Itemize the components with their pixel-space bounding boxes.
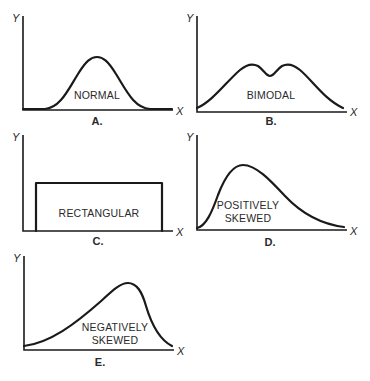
panel-bimodal: Y X BIMODAL B. — [186, 12, 358, 127]
x-axis-label: X — [349, 106, 358, 118]
x-axis-label: X — [175, 226, 184, 238]
panel-negatively-skewed: Y X NEGATIVELY SKEWED E. — [13, 252, 185, 368]
y-axis-label: Y — [186, 131, 194, 143]
shape-label-line2: SKEWED — [92, 334, 139, 346]
y-axis-label: Y — [12, 12, 20, 24]
panel-normal: Y X NORMAL A. — [12, 12, 184, 127]
panel-caption: B. — [266, 115, 277, 127]
y-axis-label: Y — [13, 252, 21, 264]
x-axis-label: X — [176, 345, 185, 357]
shape-label-line1: POSITIVELY — [217, 199, 280, 211]
panel-rectangular: Y X RECTANGULAR C. — [12, 131, 184, 247]
distribution-diagram: Y X NORMAL A. Y X BIMODAL B. Y X RECTANG… — [0, 0, 370, 381]
x-axis-label: X — [175, 105, 184, 117]
bimodal-curve — [197, 65, 343, 108]
panel-caption: C. — [93, 235, 104, 247]
panel-caption: E. — [95, 356, 105, 368]
shape-label-line2: SKEWED — [225, 212, 272, 224]
y-axis-label: Y — [186, 12, 194, 24]
shape-label-line1: NEGATIVELY — [82, 321, 148, 333]
panel-positively-skewed: Y X POSITIVELY SKEWED D. — [186, 131, 358, 248]
panel-caption: A. — [92, 115, 103, 127]
shape-label: RECTANGULAR — [59, 207, 140, 219]
shape-label: BIMODAL — [247, 89, 296, 101]
panel-caption: D. — [265, 236, 276, 248]
y-axis-label: Y — [12, 131, 20, 143]
normal-curve — [23, 57, 172, 109]
x-axis-label: X — [349, 225, 358, 237]
shape-label: NORMAL — [74, 89, 120, 101]
